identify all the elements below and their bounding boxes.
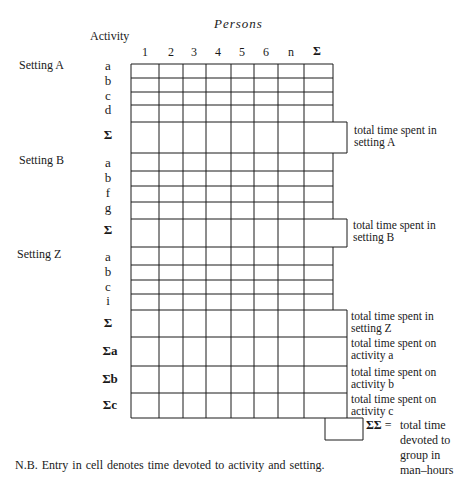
annotation: total time spent in setting Z (351, 310, 434, 334)
activity-label: b (93, 170, 123, 186)
activity-total-label: Σc (95, 397, 125, 413)
annotation: total time spent on activity b (351, 366, 436, 390)
column-header-4: 4 (208, 45, 228, 60)
activity-label: g (93, 200, 123, 216)
activity-axis-title: Activity (90, 29, 129, 44)
annotation: total time spent on activity a (351, 337, 436, 361)
grand-total-annotation: total time devoted to group in man–hours (400, 418, 453, 478)
setting-label: Setting Z (17, 247, 61, 262)
activity-label: d (93, 102, 123, 118)
column-header-2: 2 (161, 45, 181, 60)
column-header-5: 5 (232, 45, 252, 60)
activity-label: f (93, 185, 123, 201)
activity-total-label: Σb (95, 371, 125, 387)
column-header-6: 6 (256, 45, 276, 60)
activity-label: i (93, 293, 123, 309)
annotation: total time spent in setting A (354, 124, 437, 148)
sum-row-label: Σ (93, 127, 123, 143)
sum-row-label: Σ (93, 315, 123, 331)
activity-label: b (93, 264, 123, 280)
activity-label: a (93, 249, 123, 265)
persons-axis-title: Persons (214, 16, 263, 32)
setting-label: Setting B (19, 153, 64, 168)
column-header-3: 3 (184, 45, 204, 60)
column-header-n: n (281, 45, 301, 60)
annotation: total time spent on activity c (351, 393, 436, 417)
activity-label: a (93, 155, 123, 171)
column-header-sum: Σ (307, 44, 327, 59)
annotation: total time spent in setting B (353, 219, 436, 243)
column-header-1: 1 (135, 45, 155, 60)
setting-label: Setting A (19, 58, 64, 73)
footnote: N.B. Entry in cell denotes time devoted … (15, 458, 325, 473)
sum-row-label: Σ (93, 222, 123, 238)
activity-total-label: Σa (95, 343, 125, 359)
activity-label: b (93, 73, 123, 89)
grand-total-label: ΣΣ = (366, 418, 391, 433)
activity-label: a (93, 58, 123, 74)
